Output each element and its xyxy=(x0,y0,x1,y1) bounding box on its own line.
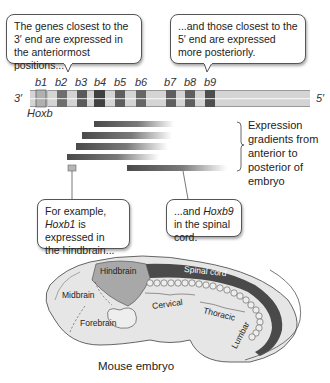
callout-hoxb1-hindbrain: For example, Hoxb1 is expressed in the h… xyxy=(37,199,130,249)
gene-label-b6: b6 xyxy=(135,76,147,88)
expression-bar-1 xyxy=(94,121,174,127)
callout-hoxb9-spinal-cord: ...and Hoxb9 in the spinal cord. xyxy=(166,199,242,237)
region-label-midbrain: Midbrain xyxy=(62,290,95,300)
expression-bar-2 xyxy=(82,132,172,139)
gene-name-hoxb9: Hoxb9 xyxy=(203,205,233,217)
expression-bar-4 xyxy=(67,154,159,160)
diagram-canvas xyxy=(0,0,330,383)
end-label-5prime: 5′ xyxy=(316,92,324,104)
gene-label-b9: b9 xyxy=(204,76,216,88)
gene-label-b3: b3 xyxy=(75,76,87,88)
region-label-hindbrain: Hindbrain xyxy=(100,266,136,276)
expression-bar-hoxb9 xyxy=(127,165,227,171)
cluster-name-hoxb: Hoxb xyxy=(27,107,53,119)
mouse-embryo xyxy=(46,256,301,362)
gene-label-b8: b8 xyxy=(184,76,196,88)
expression-bar-3 xyxy=(76,143,168,150)
gene-label-b4: b4 xyxy=(94,76,106,88)
gene-label-b7: b7 xyxy=(164,76,176,88)
region-label-forebrain: Forebrain xyxy=(80,318,116,328)
gene-label-b2: b2 xyxy=(55,76,67,88)
gene-name-hoxb1: Hoxb1 xyxy=(45,218,75,230)
expression-gradient-label: Expression gradients from anterior to po… xyxy=(248,118,328,188)
expression-bar-hoxb1 xyxy=(68,165,76,171)
end-label-3prime: 3′ xyxy=(14,92,22,104)
hoxb-gene-cluster xyxy=(30,90,310,107)
caption-mouse-embryo: Mouse embryo xyxy=(98,360,174,372)
gene-label-b5: b5 xyxy=(114,76,126,88)
gene-label-b1: b1 xyxy=(35,76,47,88)
